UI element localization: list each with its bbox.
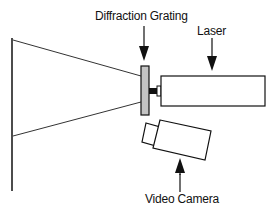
laser-label: Laser: [197, 24, 226, 38]
grating-label: Diffraction Grating: [95, 9, 188, 23]
laser-body: [161, 76, 265, 106]
diffraction-grating: [141, 66, 149, 115]
lower-ray: [13, 102, 141, 136]
laser-aperture: [157, 86, 161, 96]
camera-label: Video Camera: [145, 192, 219, 206]
camera-arrow: [175, 158, 185, 192]
laser-arrow: [207, 38, 217, 71]
laser-connector: [149, 88, 157, 94]
upper-ray: [13, 40, 141, 76]
camera-body: [153, 120, 211, 160]
grating-arrow: [139, 26, 149, 61]
diagram-canvas: [0, 0, 277, 211]
